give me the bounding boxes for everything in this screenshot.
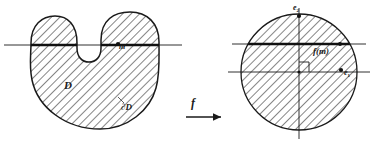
domain-hatch-fill <box>20 5 170 140</box>
map-arrow-head <box>213 113 221 121</box>
figure-svg <box>0 0 373 144</box>
point-fm-marker <box>338 42 342 46</box>
map-arrow-group <box>186 113 221 121</box>
left-domain-group <box>4 5 182 140</box>
label-axis-e1-subscript: 1 <box>348 73 350 78</box>
label-image-point-fm: f(m) <box>313 47 329 56</box>
point-e1-marker <box>339 68 343 72</box>
label-map-f: f <box>191 97 195 109</box>
figure-canvas: D ∂D m f e2 e1 f(m) <box>0 0 373 144</box>
label-domain-D: D <box>64 80 72 91</box>
label-axis-e2-subscript: 2 <box>297 8 299 13</box>
origin-marker <box>297 70 300 73</box>
label-axis-e1: e1 <box>344 69 350 77</box>
label-axis-e2: e2 <box>293 4 299 12</box>
label-boundary-dD: ∂D <box>121 103 132 112</box>
point-e2-marker <box>297 14 301 18</box>
label-point-m: m <box>119 43 125 51</box>
